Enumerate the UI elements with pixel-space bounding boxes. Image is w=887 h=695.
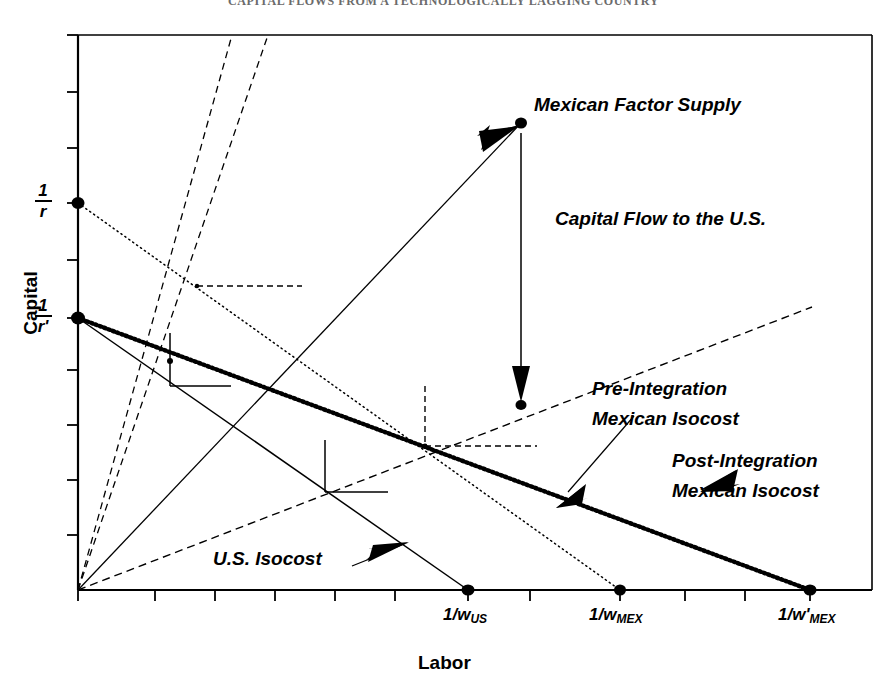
y-tick-label-one-over-r: 1 r	[30, 182, 56, 221]
x-tick-label-w-us: 1/wUS	[443, 605, 487, 626]
y-tick-upper-numerator: 1	[30, 182, 56, 200]
x-tick-label-w-mex: 1/wMEX	[589, 605, 642, 626]
mexican-factor-supply-ray	[78, 123, 521, 590]
x-axis-ticks	[78, 590, 810, 601]
x-tick-label-w-mex-prime: 1/w'MEX	[778, 605, 835, 626]
us-isocost-arrow	[352, 542, 409, 566]
pre-integration-mexican-isocost-line	[78, 203, 620, 590]
x-tick-w-mex-prime-main: 1/w'	[778, 605, 809, 624]
y-tick-upper-denominator: r	[30, 202, 56, 220]
annotation-pre-integration-line1: Pre-Integration	[592, 378, 727, 400]
y-axis-title: Capital	[20, 268, 42, 338]
y-axis-ticks	[67, 35, 78, 535]
x-tick-w-us-subscript: US	[470, 612, 487, 626]
annotation-post-integration-line2: Mexican Isocost	[672, 480, 819, 502]
x-axis-title: Labor	[418, 652, 471, 674]
economics-isocost-diagram	[0, 0, 887, 695]
plot-frame	[78, 35, 872, 590]
x-tick-w-mex-subscript: MEX	[616, 612, 642, 626]
annotation-us-isocost: U.S. Isocost	[213, 548, 322, 570]
capital-flow-arrow	[512, 133, 530, 402]
x-tick-w-mex-main: 1/w	[589, 605, 616, 624]
annotation-pre-integration-line2: Mexican Isocost	[592, 408, 739, 430]
expansion-ray-second-dashed	[78, 35, 268, 590]
annotation-mexican-factor-supply: Mexican Factor Supply	[534, 94, 741, 116]
tangency-marker-mid	[325, 440, 388, 492]
expansion-ray-shallow-dashed	[78, 307, 812, 590]
x-tick-w-mex-prime-subscript: MEX	[809, 612, 835, 626]
expansion-ray-steep-dashed	[78, 35, 232, 590]
x-tick-w-us-main: 1/w	[443, 605, 470, 624]
figure-page: CAPITAL FLOWS FROM A TECHNOLOGICALLY LAG…	[0, 0, 887, 695]
annotation-capital-flow: Capital Flow to the U.S.	[555, 208, 766, 230]
annotation-post-integration-line1: Post-Integration	[672, 450, 818, 472]
tangency-marker-us	[170, 333, 231, 386]
